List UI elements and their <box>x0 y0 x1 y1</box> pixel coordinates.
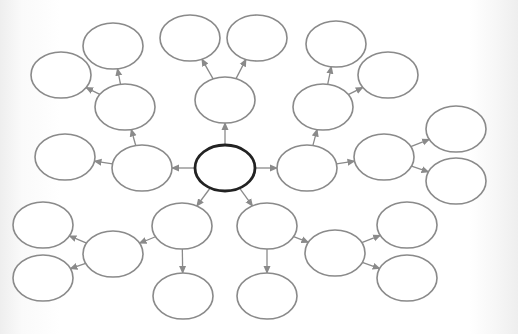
node-lowleft-side-1 <box>13 202 73 248</box>
arrow-right-to-right-1 <box>336 161 354 164</box>
central-node <box>195 145 255 191</box>
concept-web-diagram <box>0 0 518 334</box>
arrow-upleft-to-upleft-1 <box>117 69 120 85</box>
arrow-lowleft-side-to-lowleft-side-1 <box>69 236 86 243</box>
arrow-left-to-left-1 <box>94 161 112 164</box>
node-right-1-2 <box>426 158 486 204</box>
arrow-upright-to-upright-1 <box>328 67 332 85</box>
node-lowright-side-2 <box>377 255 437 301</box>
arrow-root-to-lowright <box>240 188 253 206</box>
node-lowright-side <box>305 230 365 276</box>
node-right-1 <box>354 134 414 180</box>
arrow-lowright-to-lowright-side <box>294 237 309 243</box>
arrow-lowright-side-to-lowright-side-1 <box>362 235 380 242</box>
node-upleft <box>95 84 155 130</box>
node-upleft-2 <box>31 52 91 98</box>
node-top-1 <box>160 15 220 61</box>
node-right <box>277 145 337 191</box>
node-lowleft-side <box>83 231 143 277</box>
arrow-left-to-upleft <box>131 129 135 145</box>
node-lowleft <box>152 203 212 249</box>
node-upright-1 <box>306 21 366 67</box>
node-lowright-down <box>237 273 297 319</box>
arrow-upright-to-upright-2 <box>348 87 363 94</box>
arrow-lowright-side-to-lowright-side-2 <box>362 262 379 268</box>
node-upright <box>293 84 353 130</box>
node-top-2 <box>227 15 287 61</box>
arrow-right-1-to-right-1-1 <box>411 139 429 146</box>
arrow-lowleft-to-lowleft-side <box>140 237 156 243</box>
arrow-right-1-to-right-1-2 <box>412 166 429 172</box>
node-upleft-1 <box>83 23 143 69</box>
node-upright-2 <box>358 52 418 98</box>
node-right-1-1 <box>426 106 486 152</box>
node-left <box>112 145 172 191</box>
arrow-right-to-upright <box>313 130 317 146</box>
diagram-canvas <box>0 0 518 334</box>
node-lowright <box>237 203 297 249</box>
arrow-top-to-top-2 <box>236 59 246 78</box>
node-lowleft-down <box>153 273 213 319</box>
node-top <box>195 77 255 123</box>
arrow-upleft-to-upleft-2 <box>86 88 100 95</box>
node-lowleft-side-2 <box>13 255 73 301</box>
arrow-lowleft-side-to-lowleft-side-2 <box>70 263 85 268</box>
node-lowright-side-1 <box>377 202 437 248</box>
node-left-1 <box>35 134 95 180</box>
arrow-root-to-lowleft <box>197 188 210 206</box>
arrow-top-to-top-1 <box>202 59 213 79</box>
